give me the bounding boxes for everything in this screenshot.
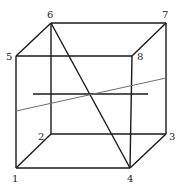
vertex-label-2: 2 — [38, 131, 44, 142]
vertex-label-4: 4 — [127, 173, 133, 184]
vertex-label-5: 5 — [6, 51, 12, 62]
edge-3-4 — [130, 134, 166, 168]
diagonal-6-4 — [51, 23, 130, 168]
cube-diagram: 12345678 — [0, 0, 182, 187]
vertex-label-1: 1 — [12, 173, 18, 184]
vertex-label-8: 8 — [137, 51, 143, 62]
edge-5-6 — [16, 23, 51, 56]
edge-1-2 — [16, 134, 51, 168]
edge-4-8 — [130, 56, 132, 168]
vertex-label-3: 3 — [169, 131, 175, 142]
vertex-label-7: 7 — [162, 9, 168, 20]
vertex-label-6: 6 — [47, 9, 53, 20]
